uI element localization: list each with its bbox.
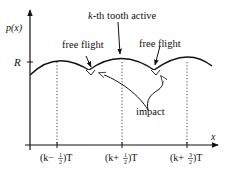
svg-text:)T: )T — [193, 152, 202, 164]
svg-text:(k+: (k+ — [170, 152, 184, 164]
svg-text:(k+: (k+ — [105, 152, 119, 164]
active-arrow — [118, 22, 120, 54]
impact-arrow-left — [99, 73, 148, 110]
free-flight-right-label: free flight — [139, 38, 181, 49]
svg-text:2: 2 — [189, 159, 192, 165]
svg-text:3: 3 — [189, 152, 192, 158]
arc-right — [154, 57, 212, 70]
impact-notch-left — [86, 70, 95, 75]
svg-text:(k−: (k− — [40, 152, 54, 164]
svg-text:2: 2 — [59, 159, 62, 165]
free-flight-left-label: free flight — [62, 39, 104, 50]
tick-label-k-minus-half: (k− 1 2 )T — [40, 152, 72, 165]
svg-text:)T: )T — [128, 152, 137, 164]
impact-diagram: R p(x) x k-th tooth active free flight f… — [0, 0, 232, 177]
r-label: R — [13, 56, 21, 68]
svg-text:1: 1 — [124, 152, 127, 158]
x-axis-label: x — [210, 131, 216, 142]
impact-notch-right — [151, 70, 160, 75]
impact-label: impact — [136, 106, 165, 117]
arc-middle — [89, 58, 157, 72]
arc-left — [30, 61, 92, 75]
svg-text:1: 1 — [59, 152, 62, 158]
y-axis-label: p(x) — [5, 22, 23, 34]
tick-label-k-plus-half: (k+ 1 2 )T — [105, 152, 137, 165]
free-flight-left-arrow — [86, 56, 91, 67]
tick-label-k-plus-three-halves: (k+ 3 2 )T — [170, 152, 202, 165]
active-label: k-th tooth active — [88, 10, 157, 21]
impact-arrow-right — [147, 76, 162, 110]
svg-text:2: 2 — [124, 159, 127, 165]
svg-text:)T: )T — [63, 152, 72, 164]
